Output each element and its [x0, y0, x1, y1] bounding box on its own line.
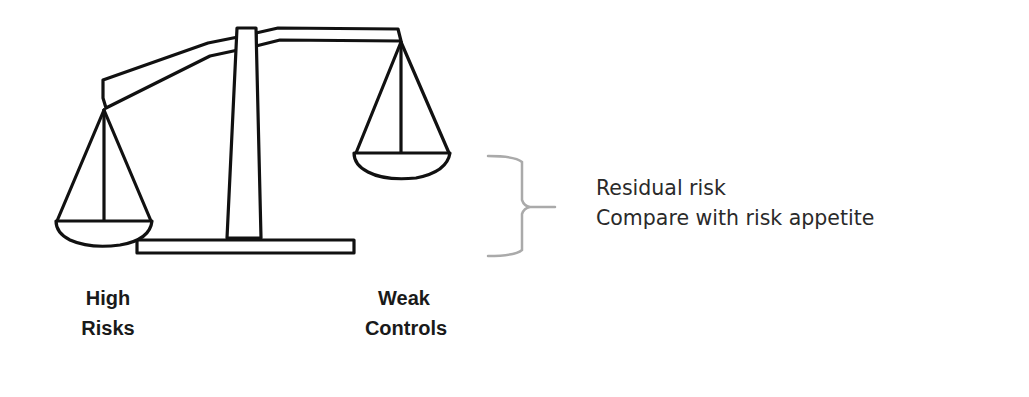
beam-left: [103, 37, 238, 108]
label-controls: Controls: [356, 313, 456, 343]
annotation-compare-appetite: Compare with risk appetite: [596, 203, 874, 233]
annotation-residual-risk: Residual risk: [596, 173, 726, 203]
left-pan: [56, 110, 152, 246]
label-risks: Risks: [58, 313, 158, 343]
beam-right: [256, 28, 401, 46]
label-high: High: [58, 283, 158, 313]
label-weak: Weak: [354, 283, 454, 313]
base: [137, 240, 354, 253]
curly-bracket: [488, 156, 555, 256]
pillar: [227, 28, 261, 238]
right-pan: [354, 42, 450, 179]
